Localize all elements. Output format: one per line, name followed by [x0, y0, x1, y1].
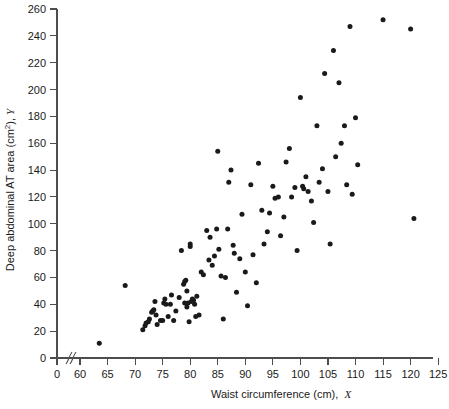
data-point: [162, 296, 167, 301]
data-point: [314, 123, 319, 128]
data-point: [177, 295, 182, 300]
x-axis-title: Waist circumference (cm), X: [211, 388, 352, 400]
data-point: [223, 275, 228, 280]
data-point: [411, 216, 416, 221]
data-point: [303, 174, 308, 179]
x-tick-label: 60: [74, 368, 86, 380]
data-point: [173, 309, 178, 314]
data-point: [226, 180, 231, 185]
data-point: [270, 184, 275, 189]
data-point: [298, 95, 303, 100]
data-point: [325, 189, 330, 194]
data-point: [179, 248, 184, 253]
data-point: [336, 80, 341, 85]
x-tick-label: 95: [267, 368, 279, 380]
data-point: [166, 314, 171, 319]
data-point: [381, 17, 386, 22]
data-point: [339, 141, 344, 146]
data-point: [155, 322, 160, 327]
y-tick-label: 60: [34, 271, 46, 283]
plot-canvas: 020406080100120140160180200220240260 060…: [0, 0, 449, 409]
y-tick-label: 140: [28, 164, 46, 176]
data-point: [168, 302, 173, 307]
y-tick-label: 160: [28, 137, 46, 149]
data-point: [194, 294, 199, 299]
data-point: [262, 241, 267, 246]
data-point: [317, 180, 322, 185]
y-tick-label: 260: [28, 3, 46, 15]
data-point: [237, 256, 242, 261]
data-point: [259, 208, 264, 213]
data-point: [295, 248, 300, 253]
x-axis-ticks: 06065707580859095100105110115120125: [54, 358, 447, 380]
x-tick-label: 85: [212, 368, 224, 380]
y-tick-label: 20: [34, 325, 46, 337]
data-point: [216, 247, 221, 252]
data-point: [328, 241, 333, 246]
data-point: [287, 146, 292, 151]
x-tick-label: 65: [101, 368, 113, 380]
data-point: [333, 154, 338, 159]
data-point: [306, 189, 311, 194]
data-point: [147, 317, 152, 322]
data-point: [228, 168, 233, 173]
data-point: [163, 302, 168, 307]
data-point: [353, 115, 358, 120]
data-point: [322, 71, 327, 76]
y-tick-label: 100: [28, 218, 46, 230]
data-point: [214, 227, 219, 232]
data-point: [151, 307, 156, 312]
data-point: [187, 319, 192, 324]
data-point: [171, 318, 176, 323]
data-point: [221, 317, 226, 322]
y-tick-label: 40: [34, 298, 46, 310]
data-points-layer: [97, 17, 417, 346]
data-point: [276, 194, 281, 199]
x-tick-label: 120: [401, 368, 419, 380]
data-point: [206, 258, 211, 263]
x-tick-label: 75: [157, 368, 169, 380]
x-tick-label: 80: [184, 368, 196, 380]
data-point: [331, 48, 336, 53]
y-tick-label: 200: [28, 84, 46, 96]
data-point: [311, 220, 316, 225]
data-point: [248, 182, 253, 187]
x-tick-label: 115: [374, 368, 392, 380]
data-point: [245, 303, 250, 308]
data-point: [183, 278, 188, 283]
data-point: [301, 186, 306, 191]
x-tick-label: 70: [129, 368, 141, 380]
data-point: [342, 123, 347, 128]
data-point: [201, 272, 206, 277]
y-tick-label: 240: [28, 30, 46, 42]
data-point: [284, 160, 289, 165]
data-point: [192, 302, 197, 307]
x-tick-label: 0: [54, 368, 60, 380]
data-point: [254, 280, 259, 285]
y-tick-label: 80: [34, 245, 46, 257]
data-point: [256, 161, 261, 166]
data-point: [278, 233, 283, 238]
data-point: [320, 166, 325, 171]
x-tick-label: 125: [429, 368, 447, 380]
data-point: [152, 299, 157, 304]
data-point: [350, 192, 355, 197]
data-point: [344, 182, 349, 187]
data-point: [355, 162, 360, 167]
data-point: [347, 24, 352, 29]
data-point: [232, 251, 237, 256]
data-point: [292, 185, 297, 190]
x-tick-label: 110: [347, 368, 365, 380]
data-point: [309, 198, 314, 203]
data-point: [188, 241, 193, 246]
data-point: [408, 27, 413, 32]
data-point: [208, 235, 213, 240]
data-point: [231, 243, 236, 248]
data-point: [97, 341, 102, 346]
data-point: [204, 228, 209, 233]
data-point: [212, 253, 217, 258]
y-axis-ticks: 020406080100120140160180200220240260: [28, 3, 57, 364]
y-tick-label: 0: [40, 352, 46, 364]
x-tick-label: 90: [239, 368, 251, 380]
data-point: [210, 263, 215, 268]
